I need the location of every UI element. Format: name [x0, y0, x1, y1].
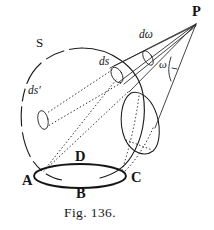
ray-to-point-C — [122, 96, 139, 170]
angle-omega-tick — [172, 68, 177, 69]
figure-container: P S ds ds′ dω ω A B C D Fig. 136. — [0, 0, 214, 230]
label-angle-omega: ω — [159, 59, 167, 70]
figure-caption: Fig. 136. — [64, 205, 116, 221]
label-point-B: B — [76, 186, 86, 201]
label-point-A: A — [22, 173, 32, 188]
label-point-D: D — [75, 149, 85, 164]
ray-P-to-ds-prime-upper — [47, 70, 112, 113]
cone-cross-section-ellipse — [121, 92, 159, 154]
label-solid-angle-domega: dω — [139, 29, 153, 41]
label-surface-S: S — [36, 36, 43, 49]
angle-omega-arc — [169, 57, 171, 81]
label-point-C: C — [131, 170, 141, 185]
ds-prime-element-ellipse — [36, 110, 50, 131]
sphere-outline-left-arc — [21, 48, 82, 180]
label-element-ds: ds — [99, 56, 109, 68]
ds-element-ellipse — [108, 65, 125, 85]
label-element-ds-prime: ds′ — [28, 85, 41, 97]
label-point-P: P — [192, 4, 201, 19]
ray-to-point-A — [44, 92, 128, 171]
figure-drawing — [0, 0, 214, 230]
